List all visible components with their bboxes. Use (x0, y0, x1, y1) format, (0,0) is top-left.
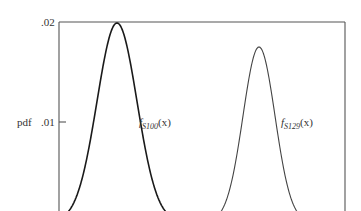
ytick-label-01: .01 (41, 117, 55, 128)
curve-s100 (37, 23, 197, 211)
pdf-chart (0, 0, 361, 211)
label-s100-sub: S100 (142, 122, 158, 131)
series-label-s129: fS129(x) (281, 116, 313, 133)
label-s129-arg: (x) (300, 116, 313, 128)
label-s129-sub: S129 (284, 122, 300, 131)
series-label-s100: fS100(x) (139, 116, 171, 133)
label-s100-arg: (x) (158, 116, 171, 128)
y-axis-label: pdf (17, 117, 32, 128)
ytick-label-02: .02 (41, 17, 55, 28)
